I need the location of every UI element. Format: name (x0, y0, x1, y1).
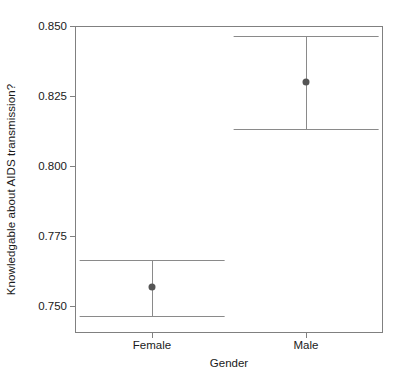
y-tick-mark (70, 26, 75, 27)
y-tick-label: 0.775 (7, 230, 67, 242)
data-point-marker (149, 283, 156, 290)
x-axis-title: Gender (75, 357, 383, 369)
y-tick-label: 0.850 (7, 20, 67, 32)
y-tick-mark (70, 306, 75, 307)
error-bar-cap (234, 129, 379, 130)
y-tick-mark (70, 166, 75, 167)
y-tick-mark (70, 236, 75, 237)
x-tick-label: Female (107, 339, 197, 351)
y-tick-label: 0.750 (7, 300, 67, 312)
y-tick-mark (70, 96, 75, 97)
chart-figure: Knowledgable about AIDS transmission? 0.… (0, 0, 401, 379)
x-tick-mark (152, 333, 153, 338)
x-tick-label: Male (261, 339, 351, 351)
error-bar-cap (80, 316, 225, 317)
x-tick-mark (306, 333, 307, 338)
error-bar-cap (234, 36, 379, 37)
y-tick-label: 0.800 (7, 160, 67, 172)
error-bar-cap (80, 260, 225, 261)
y-axis-title: Knowledgable about AIDS transmission? (0, 0, 22, 379)
plot-area (75, 26, 383, 333)
y-tick-label: 0.825 (7, 90, 67, 102)
data-point-marker (303, 79, 310, 86)
